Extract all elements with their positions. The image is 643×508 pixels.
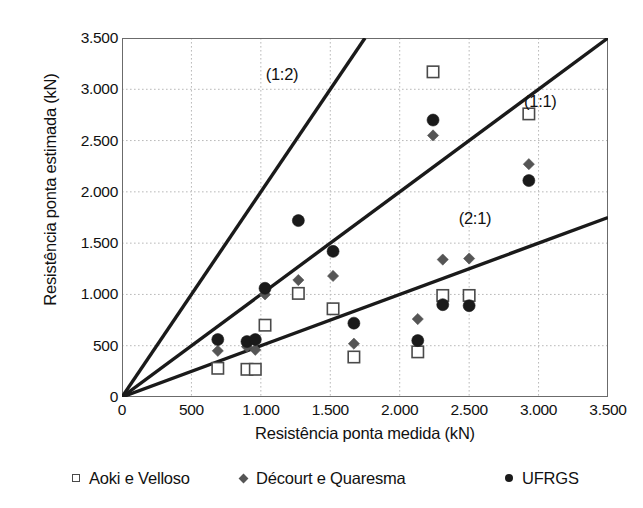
marker-filled-circle [437,299,449,311]
series-ufrgs [212,114,535,348]
marker-filled-circle [212,334,224,346]
legend-item-d-court-e-quaresma[interactable]: Décourt e Quaresma [240,466,406,490]
marker-filled-diamond [212,345,223,356]
ratio-annotation-21: (2:1) [459,209,491,228]
marker-filled-circle [523,175,535,187]
x-tick-label: 2.000 [365,402,435,418]
x-axis-tick-labels: 05001.0001.5002.0002.5003.0003.500 [0,402,643,424]
marker-open-square [412,346,423,357]
marker-filled-diamond [412,313,423,324]
marker-filled-diamond [327,270,338,281]
marker-filled-diamond [523,159,534,170]
y-axis-tick-labels: 05001.0001.5002.0002.5003.0003.500 [40,0,118,420]
chart-legend: Aoki e VellosoDécourt e QuaresmaUFRGS [0,466,643,498]
y-tick-label: 3.500 [44,30,118,46]
ratio-annotation-11: (1:1) [524,92,556,111]
marker-filled-circle [249,334,261,346]
scatter-chart-figure: Resistência ponta estimada (kN) 05001.00… [0,0,643,508]
x-tick-label: 2.500 [434,402,504,418]
marker-open-square [250,364,261,375]
reference-line [122,218,608,398]
marker-filled-diamond [427,130,438,141]
legend-item-label: Aoki e Velloso [89,469,190,488]
marker-filled-circle [427,114,439,126]
x-tick-label: 3.000 [504,402,574,418]
marker-open-square [348,351,359,362]
legend-item-aoki-e-velloso[interactable]: Aoki e Velloso [72,466,190,490]
marker-filled-circle [259,282,271,294]
marker-filled-diamond [348,338,359,349]
marker-filled-diamond [437,254,448,265]
x-tick-label: 1.000 [226,402,296,418]
y-tick-label: 2.500 [44,133,118,149]
filled-circle-icon [505,474,513,482]
marker-filled-diamond [293,274,304,285]
marker-open-square [427,66,438,77]
legend-item-ufrgs[interactable]: UFRGS [505,466,579,490]
marker-filled-circle [327,245,339,257]
marker-filled-diamond [464,253,475,264]
marker-open-square [293,288,304,299]
filled-diamond-icon [239,473,249,483]
open-square-icon [72,474,80,482]
y-tick-label: 3.000 [44,81,118,97]
marker-open-square [327,303,338,314]
marker-filled-circle [463,300,475,312]
y-tick-label: 1.000 [44,286,118,302]
y-tick-label: 500 [44,338,118,354]
marker-filled-circle [348,317,360,329]
x-tick-label: 0 [87,402,157,418]
legend-item-label: UFRGS [522,469,579,488]
legend-item-label: Décourt e Quaresma [256,469,406,488]
marker-open-square [259,320,270,331]
marker-filled-circle [412,335,424,347]
x-axis-title: Resistência ponta medida (kN) [122,424,608,443]
x-tick-label: 1.500 [295,402,365,418]
x-tick-label: 3.500 [573,402,643,418]
y-tick-label: 1.500 [44,235,118,251]
ratio-annotation-12: (1:2) [266,65,298,84]
marker-filled-circle [292,215,304,227]
marker-open-square [212,363,223,374]
y-tick-label: 2.000 [44,184,118,200]
x-tick-label: 500 [156,402,226,418]
